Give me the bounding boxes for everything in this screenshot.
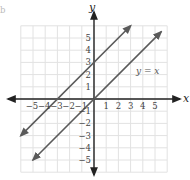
line-y-equals-x — [33, 32, 161, 160]
x-tick-label: 4 — [140, 101, 145, 111]
y-tick-label: 4 — [86, 45, 91, 55]
y-tick-label: 2 — [86, 70, 91, 80]
y-tick-label: −2 — [78, 118, 91, 128]
x-tick-label: 5 — [152, 101, 157, 111]
y-tick-label: −4 — [78, 143, 91, 153]
line-label: y = x — [135, 66, 159, 76]
y-axis-label: y — [88, 1, 96, 14]
x-tick-label: −4 — [38, 101, 51, 111]
corner-mark: b — [0, 5, 6, 15]
y-tick-label: 5 — [86, 33, 91, 43]
x-tick-label: −2 — [62, 101, 75, 111]
y-tick-label: −5 — [78, 155, 91, 165]
x-axis-label: x — [183, 92, 190, 105]
y-tick-label: 1 — [86, 82, 91, 92]
y-tick-label: −3 — [78, 131, 91, 141]
line-y-equals-x-plus-3 — [21, 26, 131, 136]
x-tick-label: −5 — [26, 101, 39, 111]
x-tick-labels: −5−4−3−2−112345 — [26, 101, 158, 111]
x-tick-label: 3 — [128, 101, 133, 111]
y-tick-label: 3 — [86, 57, 91, 67]
x-tick-label: 1 — [103, 101, 108, 111]
coordinate-plane: −5−4−3−2−112345 54321−1−2−3−4−5 x y y = … — [0, 0, 190, 180]
x-tick-label: 2 — [116, 101, 121, 111]
x-tick-label: −3 — [50, 101, 63, 111]
y-tick-label: −1 — [78, 106, 91, 116]
